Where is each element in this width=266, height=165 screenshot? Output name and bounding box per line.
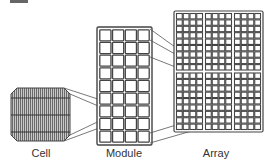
solar-array [174, 11, 263, 132]
cell-label: Cell [11, 147, 71, 159]
array-label: Array [186, 147, 246, 159]
solar-cell [11, 88, 70, 141]
pv-hierarchy-diagram [0, 0, 266, 165]
module-label: Module [94, 147, 154, 159]
solar-module [97, 27, 152, 145]
corner-mark [10, 0, 28, 3]
